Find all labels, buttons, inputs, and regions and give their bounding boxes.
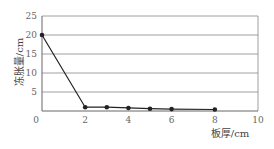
x-tick-label: 2	[82, 115, 88, 125]
data-point-marker	[169, 107, 174, 112]
data-series	[40, 33, 217, 112]
data-point-marker	[105, 105, 110, 110]
x-axis-ticks: 0246810	[33, 115, 264, 125]
y-tick-label: 25	[26, 11, 38, 21]
data-point-marker	[126, 106, 131, 111]
y-axis-ticks: 510152025	[26, 11, 38, 97]
data-point-marker	[148, 106, 153, 111]
x-tick-label: 10	[252, 115, 264, 125]
y-axis-label: 冻胀量/cm	[13, 37, 25, 86]
gridlines	[42, 16, 258, 92]
x-tick-label: 8	[212, 115, 218, 125]
plot-frame	[42, 16, 258, 111]
y-tick-label: 10	[26, 68, 38, 78]
x-axis-label: 板厚/cm	[211, 127, 250, 139]
x-tick-label: 0	[33, 115, 39, 125]
line-chart: 510152025 0246810 冻胀量/cm 板厚/cm	[0, 0, 274, 149]
y-tick-label: 15	[26, 49, 38, 59]
x-tick-label: 4	[126, 115, 132, 125]
data-point-marker	[213, 107, 218, 112]
data-point-marker	[83, 105, 88, 110]
y-tick-label: 20	[26, 30, 38, 40]
y-tick-label: 5	[31, 87, 37, 97]
series-line	[42, 35, 215, 109]
data-point-marker	[40, 33, 45, 38]
x-tick-label: 6	[169, 115, 175, 125]
